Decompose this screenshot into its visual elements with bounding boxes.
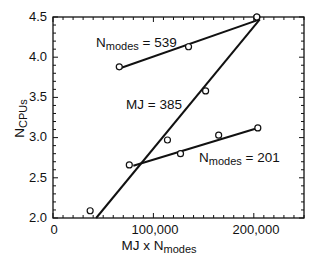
annotation-mj-385: MJ = 385 — [126, 97, 182, 112]
data-point-marker — [164, 137, 170, 143]
annotation-nmodes-539: Nmodes = 539 — [96, 35, 177, 52]
y-tick-label: 4.0 — [7, 49, 47, 64]
x-tick-label: 200,000 — [221, 222, 291, 237]
x-tick-label: 0 — [19, 222, 89, 237]
data-point-marker — [87, 208, 93, 214]
data-point-marker — [216, 132, 222, 138]
data-point-marker — [116, 64, 122, 70]
data-point-marker — [254, 14, 260, 20]
y-axis-title: NCPUs — [12, 89, 29, 149]
y-tick-label: 4.5 — [7, 9, 47, 24]
y-tick-label: 2.5 — [7, 170, 47, 185]
data-point-marker — [126, 162, 132, 168]
data-point-marker — [255, 125, 261, 131]
annotation-nmodes-201: Nmodes = 201 — [199, 150, 280, 167]
data-point-marker — [178, 151, 184, 157]
x-tick-label: 100,000 — [120, 222, 190, 237]
data-point-marker — [203, 88, 209, 94]
x-axis-title: MJ x Nmodes — [104, 238, 214, 255]
data-point-marker — [186, 44, 192, 50]
